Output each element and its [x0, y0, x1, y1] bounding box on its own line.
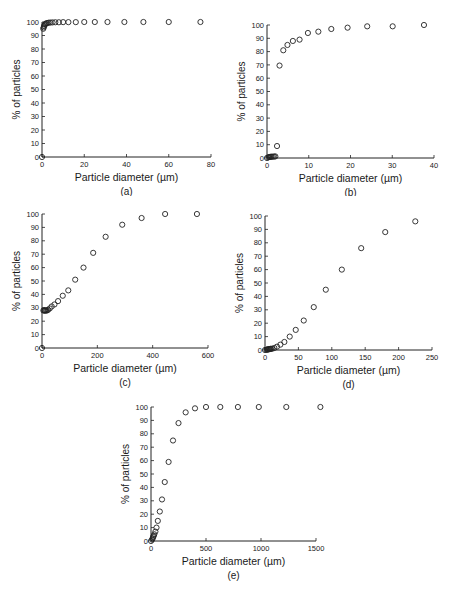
data-point-marker [285, 42, 290, 47]
x-tick-label: 0 [263, 353, 267, 362]
x-tick-label: 1500 [308, 544, 325, 553]
data-point-marker [73, 277, 78, 282]
x-axis-label: Particle diameter (µm) [75, 171, 179, 183]
data-point-marker [359, 246, 364, 251]
y-tick-label: 50 [140, 470, 148, 479]
y-tick-label: 40 [254, 292, 262, 301]
y-axis-label: % of particles [234, 253, 245, 313]
x-tick-label: 0 [265, 161, 269, 170]
x-tick-label: 150 [359, 353, 372, 362]
x-tick-label: 1000 [253, 544, 270, 553]
x-tick-label: 20 [80, 160, 88, 169]
data-point-marker [339, 267, 344, 272]
data-point-marker [66, 288, 71, 293]
chart-d: 0102030405060708090100050100150200250% o… [225, 195, 451, 391]
data-point-marker [105, 19, 110, 24]
y-axis-label: % of particles [236, 61, 247, 121]
x-tick-label: 80 [207, 160, 215, 169]
x-tick-label: 30 [388, 161, 396, 170]
data-point-marker [73, 20, 78, 25]
data-point-marker [141, 19, 146, 24]
y-tick-label: 80 [140, 429, 148, 438]
data-point-marker [155, 518, 160, 523]
panel-caption: (e) [227, 570, 239, 581]
y-tick-label: 0 [258, 346, 262, 355]
data-point-marker [297, 37, 302, 42]
data-point-marker [139, 215, 144, 220]
y-tick-label: 60 [140, 456, 148, 465]
y-tick-label: 30 [140, 496, 148, 505]
data-point-marker [345, 25, 350, 30]
x-tick-label: 400 [146, 351, 159, 360]
y-tick-label: 50 [254, 279, 262, 288]
x-tick-label: 0 [149, 544, 153, 553]
y-tick-label: 50 [31, 277, 39, 286]
x-tick-label: 500 [200, 544, 213, 553]
data-points [262, 219, 418, 353]
data-point-marker [192, 406, 197, 411]
data-point-marker [183, 410, 188, 415]
y-tick-label: 70 [256, 61, 264, 70]
y-tick-label: 20 [31, 317, 39, 326]
data-point-marker [284, 404, 289, 409]
y-tick-label: 80 [256, 47, 264, 56]
x-tick-label: 50 [294, 353, 302, 362]
x-tick-label: 200 [392, 353, 405, 362]
y-tick-label: 100 [135, 403, 148, 412]
y-tick-label: 80 [31, 45, 39, 54]
y-tick-label: 40 [31, 99, 39, 108]
x-tick-label: 200 [91, 351, 104, 360]
data-point-marker [421, 22, 426, 27]
data-point-marker [82, 19, 87, 24]
x-tick-label: 10 [305, 161, 313, 170]
x-tick-label: 0 [40, 351, 44, 360]
y-tick-label: 60 [256, 74, 264, 83]
y-tick-label: 40 [256, 100, 264, 109]
data-point-marker [323, 287, 328, 292]
chart-panel-d: 0102030405060708090100050100150200250% o… [225, 195, 451, 391]
y-tick-label: 0 [35, 344, 39, 353]
x-tick-label: 60 [165, 160, 173, 169]
y-tick-label: 90 [256, 34, 264, 43]
data-point-marker [163, 211, 168, 216]
chart-panel-e: 0102030405060708090100050010001500% of p… [100, 390, 340, 593]
y-axis-label: % of particles [11, 59, 22, 119]
x-tick-label: 600 [202, 351, 215, 360]
y-tick-label: 40 [140, 483, 148, 492]
y-tick-label: 50 [31, 85, 39, 94]
data-point-marker [122, 19, 127, 24]
y-tick-label: 20 [254, 319, 262, 328]
y-axis-label: % of particles [11, 251, 22, 311]
chart-panel-a: 0102030405060708090100020406080% of part… [0, 0, 225, 196]
data-point-marker [66, 20, 71, 25]
y-tick-label: 30 [31, 303, 39, 312]
data-point-marker [203, 404, 208, 409]
data-point-marker [92, 19, 97, 24]
y-tick-label: 100 [26, 210, 39, 219]
x-tick-label: 40 [430, 161, 438, 170]
y-axis-label: % of particles [120, 444, 131, 504]
data-point-marker [170, 438, 175, 443]
data-point-marker [166, 19, 171, 24]
data-point-marker [166, 459, 171, 464]
chart-panel-c: 01020304050607080901000200400600% of par… [0, 195, 225, 391]
y-tick-label: 70 [31, 58, 39, 67]
data-point-marker [274, 143, 279, 148]
data-point-marker [198, 19, 203, 24]
y-tick-label: 50 [256, 87, 264, 96]
data-point-marker [301, 318, 306, 323]
y-tick-label: 0 [144, 537, 148, 546]
y-tick-label: 60 [31, 72, 39, 81]
y-tick-label: 80 [254, 238, 262, 247]
data-points [148, 404, 323, 543]
y-tick-label: 20 [256, 127, 264, 136]
x-axis-label: Particle diameter (µm) [297, 364, 401, 376]
y-tick-label: 10 [140, 523, 148, 532]
y-tick-label: 70 [254, 252, 262, 261]
x-tick-label: 250 [426, 353, 439, 362]
data-point-marker [91, 250, 96, 255]
y-tick-label: 10 [31, 330, 39, 339]
y-tick-label: 100 [251, 21, 264, 30]
data-point-marker [120, 222, 125, 227]
y-tick-label: 30 [254, 305, 262, 314]
